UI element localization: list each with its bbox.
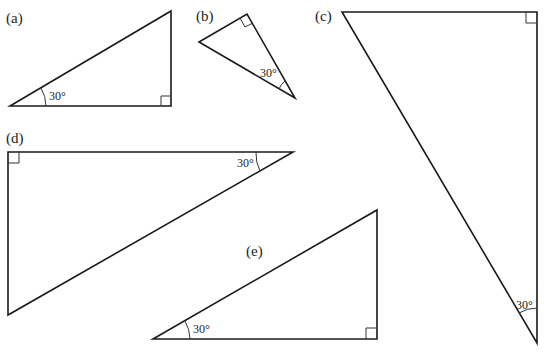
triangle-d-angle-label: 30° xyxy=(237,156,254,170)
triangle-d-angle-arc xyxy=(256,152,260,171)
triangle-a-right-angle-mark xyxy=(161,96,171,106)
triangle-d-shape xyxy=(8,152,293,315)
triangle-c-right-angle-mark xyxy=(526,12,537,23)
triangle-e-right-angle-mark xyxy=(366,328,377,339)
triangles-diagram: (a) 30° (b) 30° (c) 30° (d) 30° (e) 30° xyxy=(0,0,544,357)
triangle-c-label: (c) xyxy=(315,8,332,25)
triangle-b: (b) 30° xyxy=(196,8,295,98)
triangle-e-angle-arc xyxy=(185,321,190,339)
triangle-e-label: (e) xyxy=(246,243,263,260)
triangle-b-angle-label: 30° xyxy=(260,66,277,80)
triangle-a-shape xyxy=(10,11,171,106)
triangle-d-right-angle-mark xyxy=(8,152,19,163)
triangle-e: (e) 30° xyxy=(153,210,377,339)
triangle-a: (a) 30° xyxy=(6,10,171,106)
triangle-b-label: (b) xyxy=(196,8,214,25)
triangle-a-angle-label: 30° xyxy=(49,89,66,103)
triangle-d: (d) 30° xyxy=(6,130,293,315)
triangle-e-shape xyxy=(153,210,377,339)
triangle-c-shape xyxy=(342,12,537,343)
triangle-a-angle-arc xyxy=(41,88,46,106)
triangle-a-label: (a) xyxy=(6,10,23,27)
triangle-e-angle-label: 30° xyxy=(193,322,210,336)
triangle-d-label: (d) xyxy=(6,130,24,147)
triangle-c: (c) 30° xyxy=(315,8,537,343)
triangle-b-angle-arc xyxy=(279,81,285,89)
triangle-c-angle-label: 30° xyxy=(516,298,533,312)
